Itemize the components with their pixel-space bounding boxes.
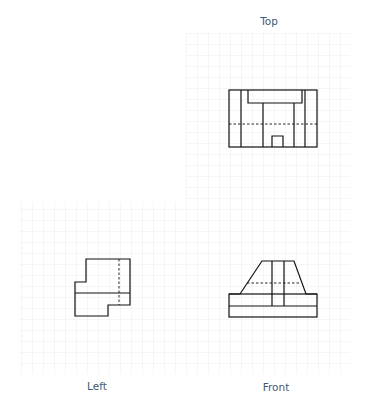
- front-view-label: Front: [263, 381, 290, 393]
- top-view-label: Top: [260, 15, 278, 27]
- drawing-canvas: [0, 0, 368, 411]
- grid-paper: [20, 33, 350, 374]
- left-view-label: Left: [87, 380, 107, 392]
